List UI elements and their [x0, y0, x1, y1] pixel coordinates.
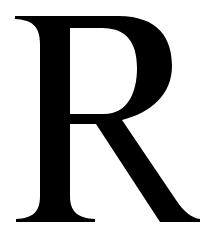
letter-r-icon: [0, 0, 209, 240]
letter-r-glyph: R: [0, 0, 209, 240]
